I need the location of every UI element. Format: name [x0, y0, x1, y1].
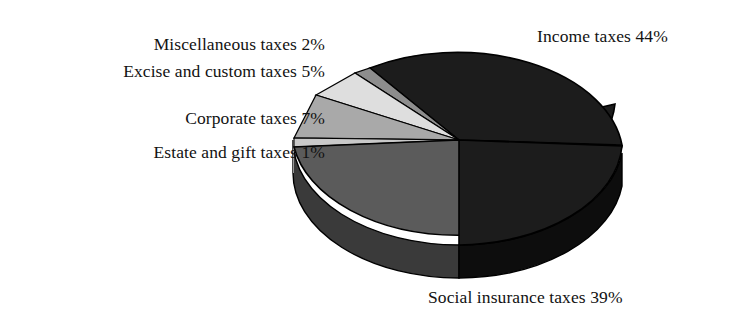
pie-label-social-insurance-taxes: Social insurance taxes 39%: [428, 289, 623, 307]
pie-label-miscellaneous-taxes: Miscellaneous taxes 2%: [154, 36, 325, 54]
pie-label-estate-gift-taxes: Estate and gift taxes 1%: [153, 144, 325, 162]
pie-chart-canvas: [0, 0, 746, 321]
pie-label-excise-custom-taxes: Excise and custom taxes 5%: [123, 63, 325, 81]
pie-label-income-taxes: Income taxes 44%: [537, 28, 668, 46]
pie-chart-figure: Miscellaneous taxes 2% Excise and custom…: [0, 0, 746, 321]
pie-label-corporate-taxes: Corporate taxes 7%: [185, 110, 325, 128]
